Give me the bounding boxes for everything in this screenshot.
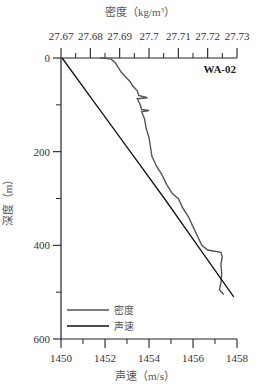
top-tick-label: 27.7	[139, 30, 159, 42]
bottom-tick-label: 1456	[182, 352, 205, 364]
y-tick-label: 0	[45, 52, 51, 64]
sound-speed-line	[62, 58, 234, 297]
y-tick-label: 400	[34, 239, 51, 251]
top-tick-label: 27.67	[49, 30, 74, 42]
top-axis-title: 密度（kg/m3）	[105, 5, 175, 18]
y-axis: 0200400600	[34, 52, 62, 345]
y-tick-label: 600	[34, 333, 51, 345]
station-label: WA-02	[204, 63, 237, 75]
density-line	[100, 58, 224, 295]
bottom-tick-label: 1452	[94, 352, 116, 364]
top-tick-label: 27.73	[225, 30, 250, 42]
top-tick-label: 27.72	[195, 30, 220, 42]
legend-speed-label: 声速	[114, 320, 134, 332]
top-tick-label: 27.68	[78, 30, 103, 42]
legend-density-label: 密度	[114, 304, 134, 316]
chart-svg: 密度（kg/m3） 27.6727.6827.6927.727.7127.722…	[0, 0, 256, 391]
bottom-axis: 14501452145414561458	[50, 339, 249, 364]
top-tick-label: 27.71	[166, 30, 191, 42]
bottom-tick-label: 1458	[226, 352, 249, 364]
top-tick-label: 27.69	[107, 30, 132, 42]
y-axis-title: 深度（m）	[1, 174, 14, 227]
y-tick-label: 200	[34, 146, 51, 158]
legend: 密度 声速	[67, 304, 134, 332]
bottom-tick-label: 1450	[50, 352, 73, 364]
bottom-axis-title: 声速（m/s）	[115, 369, 175, 382]
top-axis: 27.6727.6827.6927.727.7127.7227.73	[49, 30, 250, 58]
bottom-tick-label: 1454	[138, 352, 161, 364]
